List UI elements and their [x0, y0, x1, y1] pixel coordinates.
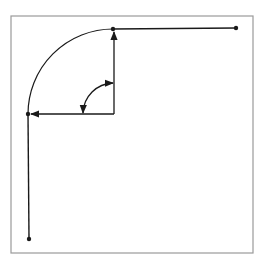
left-straight-segment	[28, 114, 29, 239]
top-straight-segment	[113, 28, 236, 29]
tangent-point-top	[111, 27, 115, 31]
endpoint-bottom-left	[27, 237, 31, 241]
diagram-frame	[11, 16, 253, 253]
tangent-point-left	[26, 112, 30, 116]
fillet-diagram	[0, 0, 273, 266]
angle-arc-double-arrow	[83, 83, 113, 113]
endpoint-top-right	[234, 26, 238, 30]
fillet-arc	[28, 29, 113, 114]
